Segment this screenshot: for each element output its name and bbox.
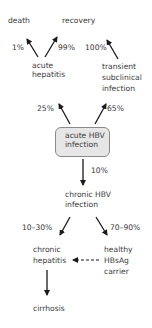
node-death: death <box>8 16 30 25</box>
node-cirrhosis: cirrhosis <box>33 304 65 313</box>
arrow-acute-to-death <box>27 39 38 57</box>
label-chronic-to-hepatitis: 10–30% <box>22 223 52 232</box>
node-acute-hepatitis: acute hepatitis <box>32 61 65 79</box>
arrow-transient-to-recovery <box>107 40 118 59</box>
node-recovery: recovery <box>62 16 95 25</box>
node-chronic-hbv-infection: chronic HBV infection <box>65 190 111 210</box>
node-acute-hbv-label: acute HBV infection <box>56 128 109 149</box>
node-chronic-hepatitis: chronic hepatitis <box>33 244 66 266</box>
label-chronic-to-carrier: 70–90% <box>110 223 140 232</box>
arrow-chronic-to-hepatitis <box>60 217 70 235</box>
node-transient-subclinical: transient subclinical infection <box>102 61 142 94</box>
node-healthy-hbsag-carrier: healthy HBsAg carrier <box>104 244 133 277</box>
label-hbv-to-transient: 65% <box>107 104 124 113</box>
arrow-chronic-to-carrier <box>96 217 107 235</box>
label-acute-to-recovery: 99% <box>58 43 75 52</box>
label-hbv-to-acute: 25% <box>37 104 54 113</box>
label-hbv-to-chronic: 10% <box>91 166 108 175</box>
arrow-acute-to-recovery <box>45 37 57 57</box>
arrow-hbv-to-acute <box>59 104 70 124</box>
arrow-hbv-to-transient <box>95 104 106 124</box>
label-acute-to-death: 1% <box>12 43 24 52</box>
label-transient-to-recovery: 100% <box>85 43 107 52</box>
node-acute-hbv-infection: acute HBV infection <box>55 127 110 157</box>
